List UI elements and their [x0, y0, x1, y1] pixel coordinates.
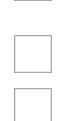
- checkbox-1[interactable]: [14, 0, 52, 1]
- checkbox-2[interactable]: [14, 35, 52, 73]
- checkbox-3[interactable]: [14, 88, 52, 121]
- checkbox-column: [0, 0, 59, 121]
